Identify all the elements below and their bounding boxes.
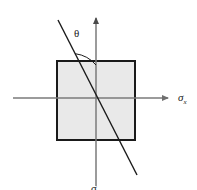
sigma-y-subscript: y bbox=[95, 189, 100, 190]
stress-element-figure: θ σx σy bbox=[0, 0, 197, 190]
figure-canvas: θ σx σy bbox=[0, 0, 197, 190]
sigma-x-subscript: x bbox=[182, 98, 187, 106]
theta-angle-label: θ bbox=[74, 27, 79, 39]
sigma-x-axis-label: σx bbox=[178, 91, 187, 106]
sigma-y-axis-label: σy bbox=[91, 182, 100, 190]
